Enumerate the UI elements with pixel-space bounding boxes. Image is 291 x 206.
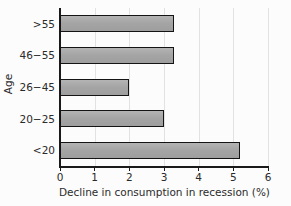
x-axis-tick-label: 1 [85, 171, 105, 183]
x-axis-tick-label: 3 [154, 171, 174, 183]
y-axis-tick-label: 46−55 [1, 49, 55, 61]
y-axis-tick-label: <20 [1, 144, 55, 156]
x-axis-tick-label: 6 [258, 171, 278, 183]
x-axis-tick-label: 5 [223, 171, 243, 183]
x-axis-tick-label: 4 [189, 171, 209, 183]
bar [60, 47, 174, 64]
bar-chart: >5546−5526−4520−25<20 0123456 Decline in… [0, 0, 291, 206]
bar [60, 15, 174, 32]
y-axis-tick-label: 20−25 [1, 113, 55, 125]
bar [60, 142, 240, 159]
x-axis-tick-label: 0 [50, 171, 70, 183]
bar [60, 79, 129, 96]
gridline [268, 8, 269, 166]
x-axis-tick-label: 2 [119, 171, 139, 183]
y-axis-tick-label: >55 [1, 18, 55, 30]
y-axis-title: Age [2, 64, 14, 104]
x-axis-title: Decline in consumption in recession (%) [59, 186, 269, 198]
bar [60, 110, 164, 127]
